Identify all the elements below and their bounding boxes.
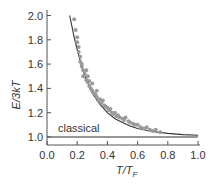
y-axis-title: E/3kT xyxy=(10,79,22,109)
data-point xyxy=(154,128,158,132)
x-axis-title: T/TF xyxy=(116,164,139,179)
data-point xyxy=(90,82,94,86)
x-tick-label: 0.6 xyxy=(130,149,145,161)
data-point xyxy=(86,74,90,78)
data-point xyxy=(80,62,84,66)
data-point xyxy=(77,45,81,49)
axes: 0.00.20.40.60.81.0 1.01.21.41.61.82.0 xyxy=(28,10,206,162)
x-ticks: 0.00.20.40.60.81.0 xyxy=(39,141,205,161)
data-point xyxy=(158,130,162,134)
plot-area xyxy=(47,16,198,138)
data-point xyxy=(77,50,81,54)
data-point xyxy=(74,28,78,32)
data-point xyxy=(101,99,105,103)
x-tick-label: 0.8 xyxy=(160,149,175,161)
data-point xyxy=(124,116,128,120)
y-ticks: 1.01.21.41.61.82.0 xyxy=(28,10,51,144)
data-point xyxy=(78,55,82,59)
y-tick-label: 1.8 xyxy=(28,34,43,46)
data-point xyxy=(72,17,76,21)
classical-label: classical xyxy=(58,122,100,134)
data-point xyxy=(95,89,99,93)
y-tick-label: 1.4 xyxy=(28,82,43,94)
x-tick-label: 0.2 xyxy=(70,149,85,161)
y-tick-label: 2.0 xyxy=(28,10,43,22)
y-tick-label: 1.6 xyxy=(28,58,43,70)
x-tick-label: 1.0 xyxy=(190,149,205,161)
x-tick-label: 0.4 xyxy=(100,149,115,161)
data-point xyxy=(75,35,79,39)
data-point xyxy=(75,40,79,44)
data-point xyxy=(84,68,88,72)
data-point xyxy=(108,107,112,111)
y-tick-label: 1.0 xyxy=(28,131,43,143)
y-tick-label: 1.2 xyxy=(28,107,43,119)
chart-canvas: 0.00.20.40.60.81.0 1.01.21.41.61.82.0 cl… xyxy=(0,0,215,187)
x-tick-label: 0.0 xyxy=(39,149,54,161)
